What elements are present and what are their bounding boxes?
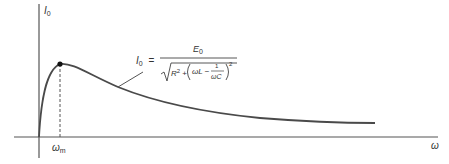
one-numerator: 1	[215, 63, 218, 69]
formula-omegaL: ωL −	[192, 68, 209, 76]
peak-label-sub: m	[60, 147, 66, 154]
formula-equals: =	[148, 55, 154, 66]
peak-label: ωm	[52, 143, 66, 154]
y-axis-label-sub: 0	[47, 10, 51, 17]
numerator-sub: 0	[199, 48, 203, 55]
peak-label-main: ω	[52, 142, 60, 153]
formula-outer-sup: 2	[229, 61, 232, 67]
plus-sign: +	[182, 69, 187, 78]
formula-one: 1	[215, 63, 218, 69]
formula-numerator: E0	[193, 45, 203, 55]
outer-sup: 2	[229, 61, 232, 67]
y-axis-label: I0	[44, 6, 51, 17]
omegaL-term: ωL	[192, 67, 203, 76]
R-sup: 2	[177, 68, 180, 74]
formula-omegaC: ωC	[211, 73, 222, 80]
omegaC-denominator: ωC	[211, 73, 222, 80]
x-axis-label-main: ω	[431, 140, 439, 151]
x-axis-label: ω	[431, 141, 439, 151]
resonance-curve-diagram	[0, 0, 449, 164]
formula-lhs: I0 =	[136, 56, 154, 67]
minus-sign: −	[205, 67, 210, 76]
formula-lhs-sub: 0	[139, 60, 143, 67]
peak-marker	[57, 61, 62, 66]
formula-R-squared: R2 +	[171, 68, 187, 78]
formula-leader-line	[118, 72, 143, 87]
left-paren	[188, 64, 191, 80]
